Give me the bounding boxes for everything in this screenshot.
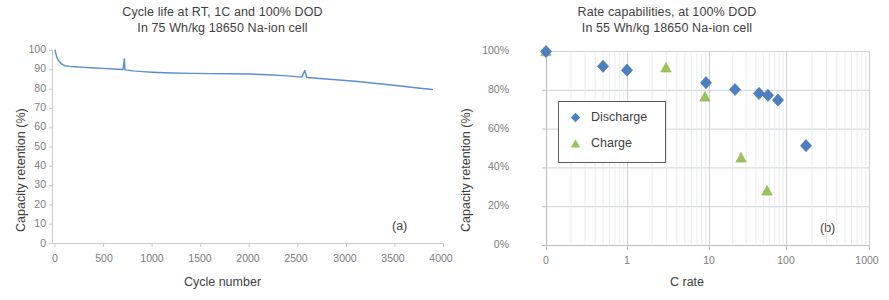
panel-b-plot-area — [445, 0, 889, 252]
panel-b-rate-capability: Rate capabilities, at 100% DOD In 55 Wh/… — [445, 0, 889, 300]
legend-label-discharge: Discharge — [591, 110, 647, 124]
panel-a-xtick-3000: 3000 — [325, 252, 365, 264]
triangle-marker-icon — [570, 138, 586, 149]
legend-item-charge[interactable]: Charge — [570, 136, 632, 150]
panel-a-xtick-2500: 2500 — [276, 252, 316, 264]
charge-point — [661, 63, 671, 73]
discharge-point — [621, 64, 632, 76]
panel-b-xtick-100: 100 — [766, 254, 806, 266]
panel-b-xtick-1: 1 — [607, 254, 647, 266]
panel-b-xtick-0: 0 — [526, 254, 566, 266]
diamond-marker-icon — [570, 112, 586, 123]
panel-a-svg — [0, 0, 445, 250]
panel-a-xtick-3500: 3500 — [373, 252, 413, 264]
discharge-point — [597, 60, 608, 72]
panel-b-legend: Discharge Charge — [558, 101, 666, 163]
panel-b-x-axis-label: C rate — [465, 275, 889, 289]
panel-a-plot-area — [0, 0, 445, 250]
legend-item-discharge[interactable]: Discharge — [570, 110, 647, 124]
panel-b-xtick-10: 10 — [689, 254, 729, 266]
panel-b-svg — [445, 0, 889, 252]
figure-root: Cycle life at RT, 1C and 100% DOD In 75 … — [0, 0, 889, 300]
panel-a-tick-marks — [49, 51, 444, 248]
panel-a-xtick-1000: 1000 — [132, 252, 172, 264]
panel-a-xtick-0: 0 — [35, 252, 75, 264]
discharge-point — [800, 140, 811, 152]
discharge-point — [729, 83, 740, 95]
charge-point — [736, 153, 746, 163]
panel-b-xtick-1000: 1000 — [846, 254, 888, 266]
panel-a-xtick-2000: 2000 — [228, 252, 268, 264]
discharge-point — [772, 94, 783, 106]
panel-a-xtick-1500: 1500 — [180, 252, 220, 264]
discharge-point — [762, 89, 773, 101]
panel-a-x-axis-label: Cycle number — [0, 275, 445, 289]
panel-a-xtick-500: 500 — [84, 252, 124, 264]
panel-a-retention-curve — [55, 50, 432, 90]
panel-a-cycle-life: Cycle life at RT, 1C and 100% DOD In 75 … — [0, 0, 445, 300]
legend-label-charge: Charge — [591, 136, 632, 150]
